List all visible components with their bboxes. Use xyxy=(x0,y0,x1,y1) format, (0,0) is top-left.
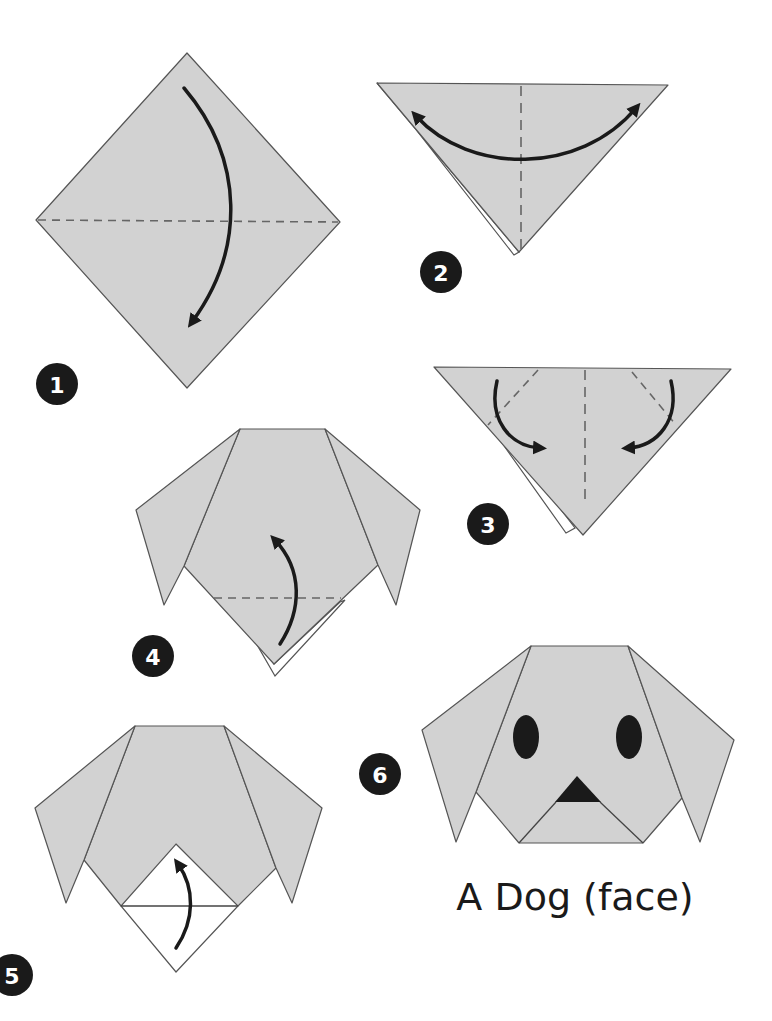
step-badge: 6 xyxy=(359,753,401,795)
step-5: 5 xyxy=(0,726,322,996)
diagram-title: A Dog (face) xyxy=(456,875,693,919)
svg-text:1: 1 xyxy=(49,373,64,398)
step-badge: 1 xyxy=(36,363,78,405)
right-eye xyxy=(616,715,642,759)
origami-diagram: 1 2 3 4 xyxy=(0,0,772,1021)
svg-text:2: 2 xyxy=(433,261,448,286)
step-6: 6 A Dog (face) xyxy=(359,646,734,919)
svg-text:5: 5 xyxy=(4,964,19,989)
step-badge: 3 xyxy=(467,503,509,545)
svg-text:4: 4 xyxy=(145,645,160,670)
svg-text:6: 6 xyxy=(372,763,387,788)
step-badge: 5 xyxy=(0,954,33,996)
step-4: 4 xyxy=(132,429,420,677)
step-badge: 2 xyxy=(420,251,462,293)
step-badge: 4 xyxy=(132,635,174,677)
step-3: 3 xyxy=(434,367,731,545)
svg-text:3: 3 xyxy=(480,513,495,538)
triangle-paper xyxy=(377,83,668,252)
step-2: 2 xyxy=(377,83,668,293)
step-1: 1 xyxy=(36,53,340,405)
left-eye xyxy=(513,715,539,759)
